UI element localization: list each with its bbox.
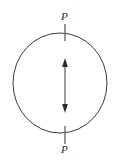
figure-container: P P bbox=[0, 0, 127, 165]
disk-load-diagram bbox=[0, 0, 127, 165]
disk-outline bbox=[13, 33, 107, 133]
load-label-top: P bbox=[61, 11, 68, 22]
load-label-bottom: P bbox=[61, 144, 68, 155]
arrow-head-down-icon bbox=[62, 104, 68, 113]
arrow-head-up-icon bbox=[62, 58, 68, 67]
